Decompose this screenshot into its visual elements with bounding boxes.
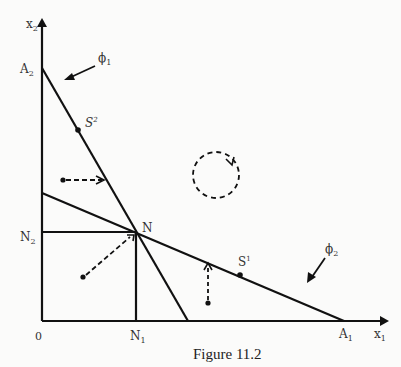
a2-label: A2 (19, 62, 34, 78)
y-axis-arrowhead-icon (37, 18, 47, 27)
phi2-pointer (307, 258, 325, 283)
n-label: N (142, 221, 153, 235)
dashed-arrow-right (60, 176, 104, 184)
x-axis-arrowhead-icon (380, 316, 389, 326)
dashed-arrow-diagonal (80, 235, 134, 280)
y-axis (37, 18, 47, 321)
phi1-pointer (64, 66, 95, 80)
s1-label: S1 (238, 255, 251, 269)
n1-label: N1 (130, 329, 146, 345)
origin-label: 0 (35, 330, 42, 343)
s1-point (237, 272, 243, 278)
dashed-cycle-circle (193, 152, 239, 198)
x-axis-label: x1 (374, 327, 386, 343)
n2-label: N2 (20, 230, 36, 246)
a1-label: A1 (338, 327, 353, 343)
figure-canvas: x2 x1 0 A2 A1 N N2 N1 S2 S1 ϕ1 ϕ2 Figure… (0, 0, 401, 367)
s2-point (75, 127, 81, 133)
figure-caption: Figure 11.2 (193, 346, 262, 362)
phi2-line (42, 193, 344, 321)
y-axis-label: x2 (26, 17, 38, 33)
phi1-line (42, 68, 188, 321)
dashed-arrow-up (204, 263, 212, 306)
phi2-label: ϕ2 (325, 242, 338, 258)
phi1-label: ϕ1 (98, 51, 111, 67)
s2-label: S2 (85, 116, 98, 130)
